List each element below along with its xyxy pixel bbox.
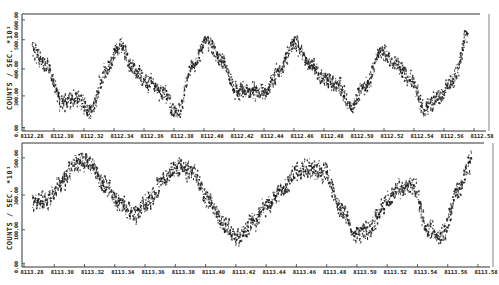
x-tick-label: 8113.40: [202, 269, 225, 275]
x-tick-label: 8112.36: [140, 133, 163, 139]
x-tick-label: 8112.50: [350, 133, 373, 139]
y-tick-label: 600.00: [13, 12, 19, 30]
x-tick-label: 8112.34: [110, 133, 133, 139]
y-tick-label: 500.00: [13, 32, 19, 50]
y-tick-label: 400.00: [13, 61, 19, 79]
x-tick-label: 8113.58: [474, 269, 497, 275]
x-tick-label: 8113.54: [414, 269, 437, 275]
x-tick-label: 8112.40: [200, 133, 223, 139]
x-tick-label: 8112.56: [440, 133, 463, 139]
bottom-plot-area: [0, 140, 499, 285]
x-tick-label: 8113.48: [323, 269, 346, 275]
x-tick-label: 8112.48: [320, 133, 343, 139]
x-tick-label: 8113.32: [81, 269, 104, 275]
x-tick-label: 8113.34: [111, 269, 134, 275]
x-tick-label: 8113.44: [263, 269, 286, 275]
x-tick-label: 8112.30: [50, 133, 73, 139]
x-tick-label: 8113.38: [172, 269, 195, 275]
top-panel: COUNTS / SEC. *10¹ 600.00500.00400.00300…: [0, 0, 499, 145]
y-tick-label: 300.00: [13, 187, 19, 205]
x-tick-label: 8112.52: [380, 133, 403, 139]
x-tick-label: 8113.28: [20, 269, 43, 275]
x-tick-label: 8113.36: [141, 269, 164, 275]
x-tick-label: 8112.32: [80, 133, 103, 139]
x-tick-label: 8112.28: [20, 133, 43, 139]
x-tick-label: 8112.38: [170, 133, 193, 139]
x-tick-label: 8113.30: [51, 269, 74, 275]
x-tick-label: 8112.42: [230, 133, 253, 139]
x-tick-label: 8113.56: [444, 269, 467, 275]
x-tick-label: 8113.46: [293, 269, 316, 275]
x-tick-label: 8113.50: [353, 269, 376, 275]
y-tick-label: 300.00: [13, 88, 19, 106]
x-tick-label: 8112.58: [470, 133, 493, 139]
x-tick-label: 8112.44: [260, 133, 283, 139]
y-tick-label: 0.00: [13, 125, 19, 137]
top-plot-area: [0, 0, 499, 145]
y-tick-label: 0.00: [13, 261, 19, 273]
bottom-panel: COUNTS / SEC. *10¹ 500.00300.00100.000.0…: [0, 140, 499, 285]
x-tick-label: 8112.46: [290, 133, 313, 139]
y-tick-label: 100.00: [13, 222, 19, 240]
data-points: [32, 151, 472, 247]
data-points: [32, 30, 469, 119]
x-tick-label: 8112.54: [410, 133, 433, 139]
y-tick-label: 500.00: [13, 150, 19, 168]
x-tick-label: 8113.42: [232, 269, 255, 275]
x-tick-label: 8113.52: [384, 269, 407, 275]
